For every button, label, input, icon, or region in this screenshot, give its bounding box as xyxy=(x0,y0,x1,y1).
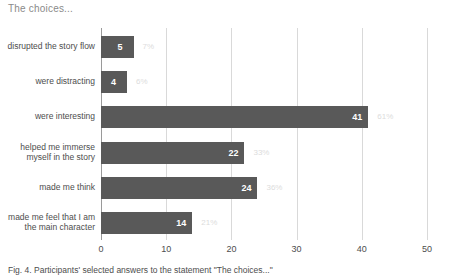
category-label: made me feel that I am the main characte… xyxy=(5,211,95,233)
x-tick-label: 10 xyxy=(161,244,171,254)
x-tick-label: 30 xyxy=(292,244,302,254)
category-label: were interesting xyxy=(5,105,95,127)
bar-value-label: 41 xyxy=(352,106,362,128)
bar-row: 4161% xyxy=(101,106,427,128)
bar xyxy=(101,142,244,164)
bar-percent-label: 6% xyxy=(136,71,148,93)
bar-value-label: 14 xyxy=(176,212,186,234)
category-label: made me think xyxy=(5,176,95,198)
gridline xyxy=(231,28,232,240)
x-tick-label: 50 xyxy=(422,244,432,254)
category-label: disrupted the story flow xyxy=(5,35,95,57)
x-tick-label: 0 xyxy=(98,244,103,254)
bar-value-label: 22 xyxy=(228,142,238,164)
bar-percent-label: 61% xyxy=(377,106,393,128)
gridline xyxy=(297,28,298,240)
chart-title: The choices... xyxy=(8,3,73,14)
figure-caption: Fig. 4. Participants' selected answers t… xyxy=(8,265,448,275)
bar-value-label: 5 xyxy=(118,36,123,58)
bar-row: 57% xyxy=(101,36,427,58)
plot-area: 57%46%4161%2233%2436%1421% xyxy=(101,28,427,240)
bar-percent-label: 33% xyxy=(253,142,269,164)
category-label: were distracting xyxy=(5,70,95,92)
category-label: helped me immerse myself in the story xyxy=(5,141,95,163)
gridline xyxy=(362,28,363,240)
gridlines xyxy=(101,28,427,240)
bar-row: 1421% xyxy=(101,212,427,234)
gridline xyxy=(166,28,167,240)
bar-value-label: 4 xyxy=(111,71,116,93)
bar-value-label: 24 xyxy=(241,177,251,199)
gridline xyxy=(427,28,428,240)
bar-row: 2436% xyxy=(101,177,427,199)
bar-row: 46% xyxy=(101,71,427,93)
x-tick-label: 20 xyxy=(226,244,236,254)
bar-percent-label: 7% xyxy=(143,36,155,58)
bar-row: 2233% xyxy=(101,142,427,164)
bar xyxy=(101,106,368,128)
bar xyxy=(101,177,257,199)
bar-percent-label: 36% xyxy=(266,177,282,199)
bar-percent-label: 21% xyxy=(201,212,217,234)
x-tick-label: 40 xyxy=(357,244,367,254)
